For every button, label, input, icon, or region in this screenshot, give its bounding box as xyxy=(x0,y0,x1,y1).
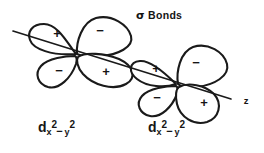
figure-title: σ Bonds xyxy=(136,10,182,21)
left-label-sup-2b: 2 xyxy=(70,119,76,130)
left-orbital-sign-lower-right: + xyxy=(102,64,110,79)
z-axis-label: z xyxy=(244,95,249,106)
right-orbital-sign-upper-right: − xyxy=(192,55,200,70)
right-label-sup-2b: 2 xyxy=(180,119,186,130)
right-orbital-label: dx2−y2 xyxy=(148,120,185,137)
right-orbital-lobe-upper-right xyxy=(178,46,228,88)
left-orbital-lobe-upper-right xyxy=(77,17,131,56)
right-orbital-sign-lower-right: + xyxy=(200,95,208,110)
left-label-d: d xyxy=(38,119,47,135)
right-label-d: d xyxy=(148,119,157,135)
right-orbital-lobe-lower-right xyxy=(176,85,219,123)
left-orbital-sign-lower-left: − xyxy=(55,63,63,78)
left-label-minus: − xyxy=(56,125,62,137)
orbital-diagram: + − − + + − − + z σ Bonds dx2−y2 xyxy=(0,0,264,153)
left-orbital-label: dx2−y2 xyxy=(38,120,75,137)
bonds-word: Bonds xyxy=(148,9,182,21)
right-orbital-sign-lower-left: − xyxy=(153,90,161,105)
sigma-symbol: σ xyxy=(136,9,145,22)
left-orbital-sign-upper-left: + xyxy=(53,26,61,41)
right-orbital-group: + − − + xyxy=(131,46,227,123)
left-orbital-sign-upper-right: − xyxy=(96,23,104,38)
right-label-minus: − xyxy=(166,125,172,137)
